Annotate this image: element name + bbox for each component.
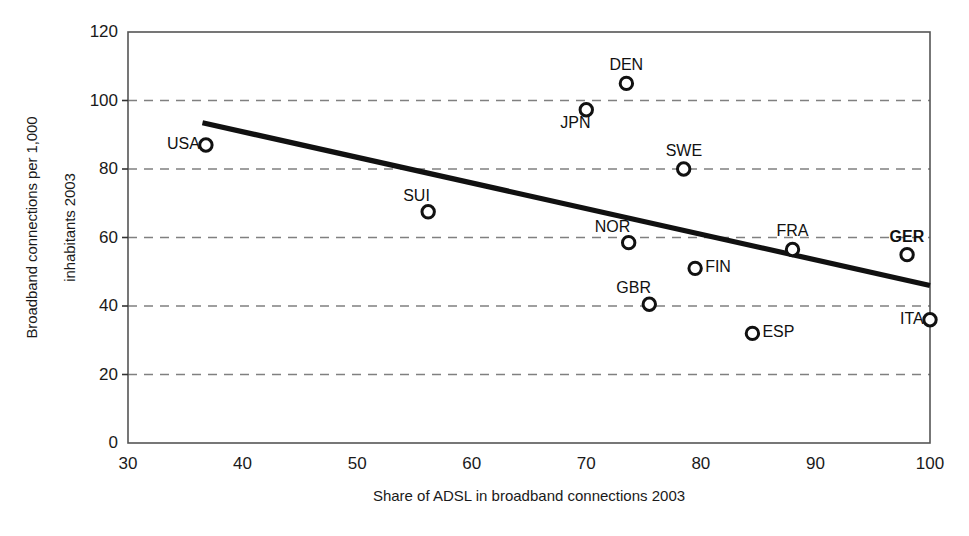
point-label-fra: FRA: [777, 223, 809, 239]
trendline: [202, 123, 930, 286]
point-label-den: DEN: [609, 57, 643, 73]
point-label-ita: ITA: [900, 311, 924, 327]
point-label-nor: NOR: [595, 219, 631, 235]
gridlines: [128, 101, 930, 375]
point-label-usa: USA: [167, 136, 200, 152]
point-label-jpn: JPN: [560, 115, 590, 131]
point-label-gbr: GBR: [616, 280, 651, 296]
point-label-sui: SUI: [403, 188, 430, 204]
point-label-fin: FIN: [705, 259, 731, 275]
point-label-ger: GER: [890, 229, 925, 245]
point-label-swe: SWE: [666, 143, 702, 159]
scatter-chart: Broadband connections per 1,000 inhabita…: [0, 0, 969, 536]
point-label-esp: ESP: [762, 324, 794, 340]
tick-marks: [122, 101, 128, 375]
plot-area: [0, 0, 969, 536]
